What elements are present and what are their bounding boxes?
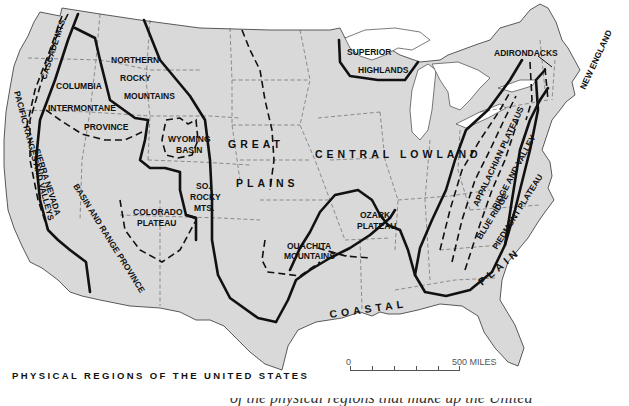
caption-cutoff: of the physical regions that make up the… bbox=[230, 398, 629, 406]
label-nrocky-2: ROCKY bbox=[120, 73, 151, 83]
label-wyoming-2: BASIN bbox=[176, 145, 202, 155]
scale-bar: 0 500 MILES bbox=[348, 357, 460, 375]
label-colorado-1: COLORADO bbox=[133, 207, 183, 217]
caption-cutoff-text: of the physical regions that make up the… bbox=[230, 398, 629, 406]
label-great-2: PLAINS bbox=[236, 177, 299, 189]
label-ozark-2: PLATEAU bbox=[357, 221, 397, 231]
label-srocky-3: MTS. bbox=[194, 203, 214, 213]
label-new-england: NEW ENGLAND bbox=[578, 28, 614, 90]
scale-tick bbox=[394, 366, 395, 370]
label-superior-2: HIGHLANDS bbox=[358, 65, 409, 75]
label-adirondacks: ADIRONDACKS bbox=[494, 48, 558, 58]
scale-tick bbox=[459, 366, 460, 370]
label-columbia-3: PROVINCE bbox=[84, 122, 129, 132]
scale-line bbox=[350, 370, 460, 371]
label-columbia-1: COLUMBIA bbox=[56, 81, 102, 91]
label-superior-1: SUPERIOR bbox=[347, 47, 391, 57]
label-ozark-1: OZARK bbox=[360, 210, 391, 220]
label-colorado-2: PLATEAU bbox=[137, 218, 177, 228]
label-nrocky-1: NORTHERN bbox=[111, 55, 159, 65]
label-ouachita-1: OUACHITA bbox=[287, 241, 331, 251]
physical-regions-map: PACIFIC RANGES AND VALLEYS CASCADE MTS. … bbox=[0, 0, 629, 406]
label-great-1: GREAT bbox=[228, 138, 284, 150]
label-columbia-2: INTERMONTANE bbox=[48, 103, 116, 113]
label-nrocky-3: MOUNTAINS bbox=[124, 91, 175, 101]
map-title: PHYSICAL REGIONS OF THE UNITED STATES bbox=[12, 370, 309, 381]
scale-tick bbox=[438, 366, 439, 370]
scale-tick bbox=[350, 366, 351, 370]
label-srocky-2: ROCKY bbox=[190, 192, 221, 202]
label-central-lowland: CENTRAL LOWLAND bbox=[315, 148, 482, 160]
scale-tick bbox=[372, 366, 373, 370]
scale-tick bbox=[416, 366, 417, 370]
label-wyoming-1: WYOMING bbox=[168, 134, 211, 144]
label-ouachita-2: MOUNTAINS bbox=[284, 251, 335, 261]
label-srocky-1: SO. bbox=[196, 181, 211, 191]
